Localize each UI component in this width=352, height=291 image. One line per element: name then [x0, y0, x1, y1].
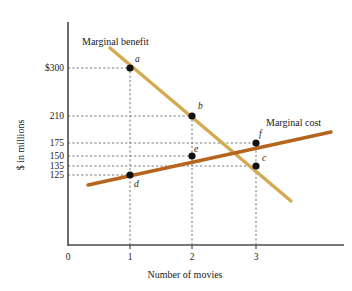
marginal-benefit-label: Marginal benefit	[82, 36, 149, 47]
x-tick-label-1: 1	[128, 252, 133, 262]
y-tick-label-300: $300	[45, 63, 64, 73]
point-label-b: b	[198, 101, 203, 111]
guide-lines	[68, 68, 256, 245]
y-tick-label-150: 150	[50, 151, 65, 161]
x-axis-title: Number of movies	[148, 269, 223, 280]
y-tick-label-210: 210	[50, 111, 65, 121]
x-tick-label-0: 0	[66, 252, 71, 262]
y-axis-title: $ in millions	[15, 120, 26, 171]
data-point-b[interactable]	[188, 112, 195, 119]
data-point-a[interactable]	[126, 64, 133, 71]
marginal-cost-curve	[88, 132, 331, 185]
point-label-d: d	[134, 179, 139, 189]
point-label-f: f	[259, 129, 263, 139]
point-label-a: a	[135, 54, 140, 64]
point-label-c: c	[262, 153, 267, 163]
chart-figure: $300 210 175 150 135 125 0 1 2 3 Number …	[0, 0, 352, 291]
y-tick-label-125: 125	[50, 170, 65, 180]
point-label-e: e	[194, 144, 198, 154]
x-tick-label-2: 2	[190, 252, 195, 262]
x-tick-label-3: 3	[254, 252, 259, 262]
chart-canvas: $300 210 175 150 135 125 0 1 2 3 Number …	[0, 0, 352, 291]
marginal-cost-label: Marginal cost	[266, 117, 321, 128]
data-point-d[interactable]	[126, 171, 133, 178]
y-tick-label-175: 175	[50, 138, 65, 148]
data-point-c[interactable]	[252, 162, 259, 169]
data-point-f[interactable]	[252, 139, 259, 146]
